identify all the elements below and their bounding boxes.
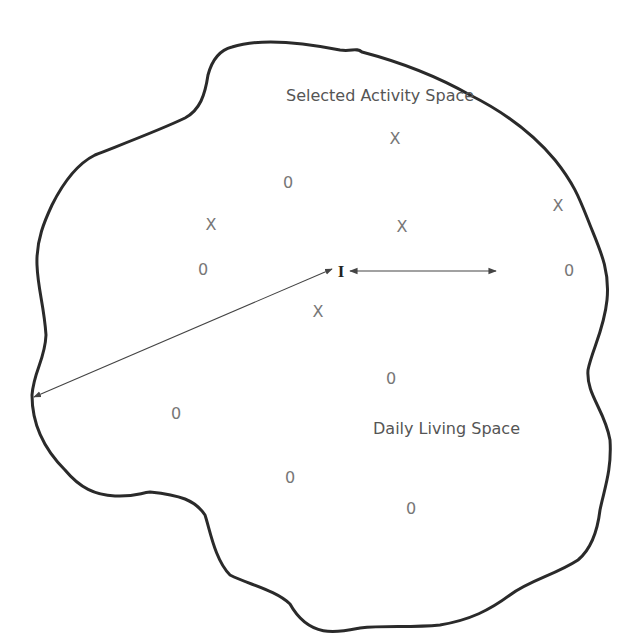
x-mark: X [553,198,564,214]
daily-living-space-boundary [32,42,610,632]
x-mark: X [397,219,408,235]
o-mark: 0 [406,501,416,517]
selected-activity-space-label: Selected Activity Space [286,86,474,105]
o-mark: 0 [283,175,293,191]
o-mark: 0 [198,262,208,278]
o-mark: 0 [285,470,295,486]
x-mark: X [390,131,401,147]
daily-living-space-label: Daily Living Space [373,419,520,438]
x-mark: X [206,217,217,233]
x-mark: X [313,304,324,320]
o-mark: 0 [564,263,574,279]
o-mark: 0 [171,406,181,422]
arrow-to-daily-living-space-edge [34,269,332,397]
o-mark: 0 [386,371,396,387]
individual-marker: I [338,263,345,280]
